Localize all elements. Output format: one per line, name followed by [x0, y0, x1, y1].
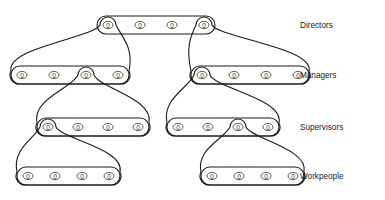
node-label-workpeople-0-3: 0 — [107, 173, 111, 180]
link-managerR1-supervisors-right — [166, 67, 280, 136]
link-supervisorR3-workpeople-right — [200, 119, 305, 185]
node-label-supervisors-0-0: 0 — [46, 124, 50, 131]
node-label-managers-1-0: 0 — [200, 72, 204, 79]
level-label-directors: Directors — [300, 21, 333, 30]
node-label-supervisors-1-2: 0 — [236, 124, 240, 131]
node-label-workpeople-0-1: 0 — [53, 173, 57, 180]
node-label-workpeople-1-0: 0 — [210, 173, 214, 180]
level-labels-layer: DirectorsManagersSupervisorsWorkpeople — [300, 21, 344, 181]
workpeople-right-group — [201, 167, 304, 185]
node-label-workpeople-1-2: 0 — [264, 173, 268, 180]
node-label-workpeople-0-0: 0 — [26, 173, 30, 180]
node-label-managers-0-1: 0 — [52, 72, 56, 79]
node-label-managers-0-2: 0 — [84, 72, 88, 79]
node-label-workpeople-1-1: 0 — [237, 173, 241, 180]
node-label-managers-0-3: 0 — [116, 72, 120, 79]
supervisors-right-group — [167, 118, 279, 136]
node-label-supervisors-1-3: 0 — [266, 124, 270, 131]
node-label-managers-1-2: 0 — [264, 72, 268, 79]
node-label-managers-0-0: 0 — [20, 72, 24, 79]
node-label-directors-0-3: 0 — [202, 22, 206, 29]
node-label-directors-0-2: 0 — [170, 22, 174, 29]
node-label-workpeople-1-3: 0 — [291, 173, 295, 180]
node-label-supervisors-0-3: 0 — [136, 124, 140, 131]
managers-right-group — [191, 66, 309, 84]
node-label-managers-1-1: 0 — [232, 72, 236, 79]
node-label-supervisors-1-1: 0 — [206, 124, 210, 131]
node-label-workpeople-0-2: 0 — [80, 173, 84, 180]
node-label-directors-0-1: 0 — [138, 22, 142, 29]
workpeople-left-group — [17, 167, 120, 185]
link-enclosures-layer — [10, 17, 310, 185]
managers-left-group — [11, 66, 129, 84]
node-label-supervisors-0-1: 0 — [76, 124, 80, 131]
hierarchy-diagram: 0000000000000000000000000000 DirectorsMa… — [0, 0, 385, 200]
level-label-supervisors: Supervisors — [300, 123, 343, 132]
supervisors-left-group — [37, 118, 149, 136]
node-label-supervisors-0-2: 0 — [106, 124, 110, 131]
node-label-directors-0-0: 0 — [106, 22, 110, 29]
directors-group — [97, 16, 215, 34]
group-enclosures-layer — [11, 16, 309, 185]
level-label-managers: Managers — [300, 71, 336, 80]
hierarchy-canvas: 0000000000000000000000000000 DirectorsMa… — [0, 0, 385, 200]
node-label-supervisors-1-0: 0 — [176, 124, 180, 131]
level-label-workpeople: Workpeople — [300, 172, 344, 181]
